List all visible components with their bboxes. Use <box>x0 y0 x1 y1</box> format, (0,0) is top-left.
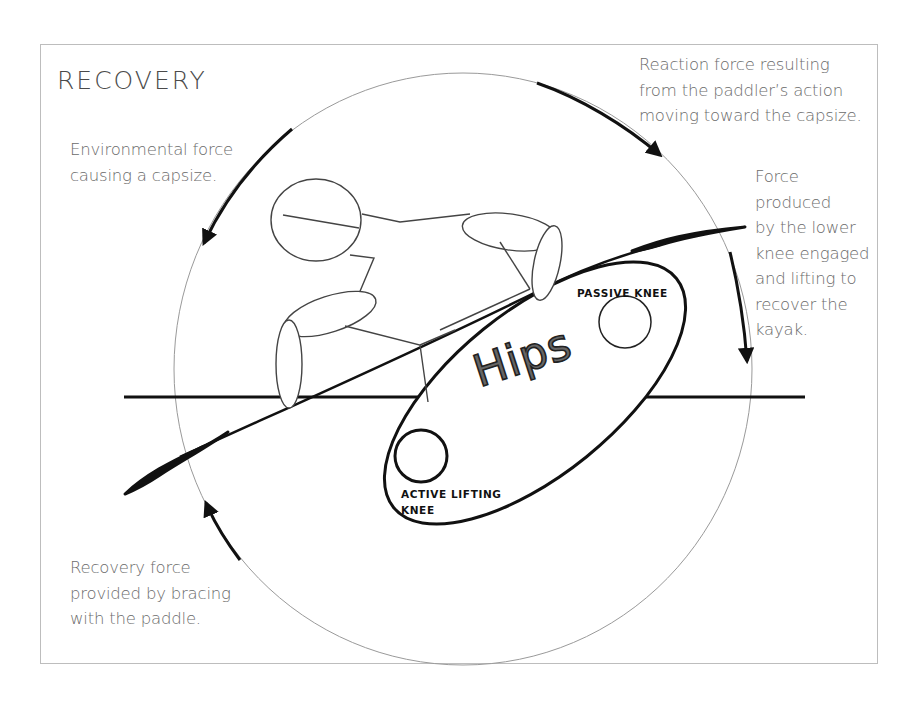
knee-force-label: Force produced by the lower knee engaged… <box>755 164 869 343</box>
passive-knee-label: PASSIVE KNEE <box>577 285 668 301</box>
forearm-left <box>276 320 302 408</box>
reaction-force-label: Reaction force resulting from the paddle… <box>639 52 862 129</box>
environmental-force-label: Environmental force causing a capsize. <box>70 137 233 188</box>
arrow-knee-force <box>730 252 747 361</box>
paddle-blade-right <box>632 227 745 251</box>
paddle-blade-left <box>125 432 228 494</box>
active-knee-label: ACTIVE LIFTING KNEE <box>401 486 502 518</box>
diagram-stage: RECOVERY Environmental force causing a c… <box>0 0 914 725</box>
recovery-force-label: Recovery force provided by bracing with … <box>70 555 231 632</box>
diagram-title: RECOVERY <box>57 66 207 95</box>
arrow-bracing-force <box>206 503 240 560</box>
